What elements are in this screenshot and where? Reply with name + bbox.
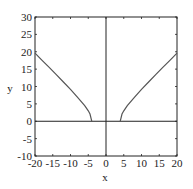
curve-branch bbox=[35, 53, 92, 121]
x-tick-label: -15 bbox=[45, 157, 60, 169]
x-tick-label: 10 bbox=[136, 157, 148, 169]
y-tick-label: 20 bbox=[21, 46, 33, 58]
y-tick-label: 5 bbox=[27, 98, 33, 110]
y-tick-label: 25 bbox=[21, 28, 33, 40]
y-tick-label: 0 bbox=[27, 115, 33, 127]
x-tick-label: 20 bbox=[172, 157, 184, 169]
y-tick-label: 10 bbox=[21, 81, 33, 93]
x-tick-label: -5 bbox=[84, 157, 94, 169]
plot-area: -20-15-10-505101520-10-5051015202530 bbox=[17, 11, 183, 169]
x-tick-label: -10 bbox=[63, 157, 78, 169]
x-tick-label: 0 bbox=[103, 157, 109, 169]
x-tick-label: 15 bbox=[154, 157, 166, 169]
y-axis-label: y bbox=[7, 82, 13, 94]
chart: -20-15-10-505101520-10-5051015202530 x y bbox=[0, 0, 193, 189]
y-tick-label: 15 bbox=[21, 63, 33, 75]
x-axis-label: x bbox=[102, 171, 108, 183]
y-tick-label: 30 bbox=[21, 11, 33, 23]
y-tick-label: -5 bbox=[23, 133, 33, 145]
y-tick-label: -10 bbox=[17, 150, 32, 162]
curve-branch bbox=[120, 53, 177, 121]
x-tick-label: 5 bbox=[121, 157, 127, 169]
